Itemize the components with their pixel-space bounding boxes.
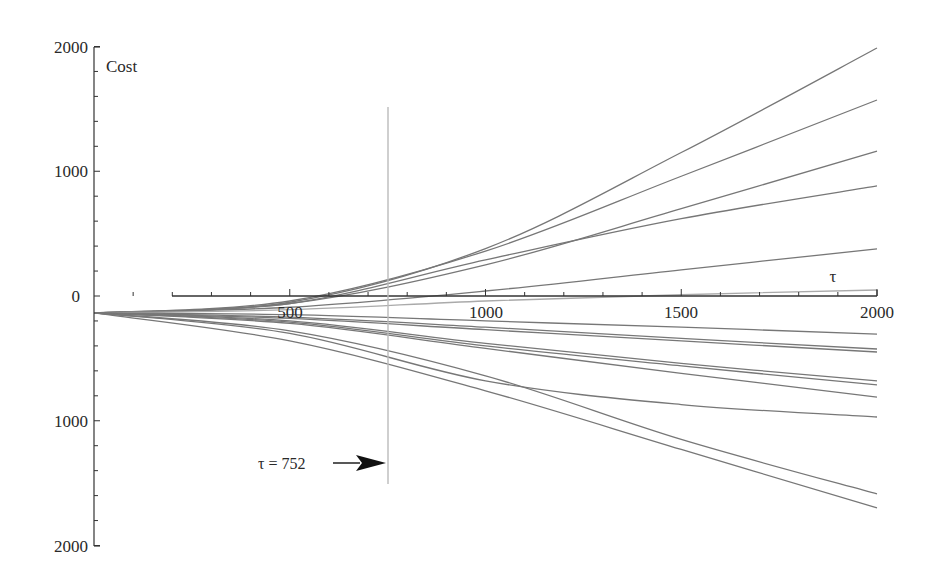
- y-axis-title: Cost: [106, 57, 137, 76]
- y-tick-label-1000: 1000: [54, 162, 88, 181]
- y-axis-minor-ticks: [94, 47, 100, 546]
- cost-vs-tau-chart: 2000 1000 0 1000 2000 Cost 500 1000 1500…: [0, 0, 934, 584]
- x-tick-label-1500: 1500: [664, 303, 698, 322]
- x-tick-label-500: 500: [277, 303, 303, 322]
- series-line-s14: [94, 313, 877, 494]
- series-line-s12: [94, 313, 877, 397]
- tau-annotation-label: τ = 752: [258, 455, 305, 472]
- arrow-right-icon: [356, 455, 386, 471]
- series-line-s2: [94, 100, 877, 313]
- x-tick-label-2000: 2000: [860, 303, 894, 322]
- series-line-s1: [94, 48, 877, 313]
- y-tick-label-neg-1000: 1000: [54, 412, 88, 431]
- x-axis-title: τ: [830, 267, 837, 286]
- y-tick-label-neg-2000: 2000: [54, 537, 88, 556]
- series-lines: [94, 48, 877, 508]
- y-axis: 2000 1000 0 1000 2000 Cost: [54, 38, 137, 556]
- x-tick-label-1000: 1000: [469, 303, 503, 322]
- y-tick-label-2000: 2000: [54, 38, 88, 57]
- series-line-s3: [94, 151, 877, 313]
- y-tick-label-0: 0: [72, 287, 81, 306]
